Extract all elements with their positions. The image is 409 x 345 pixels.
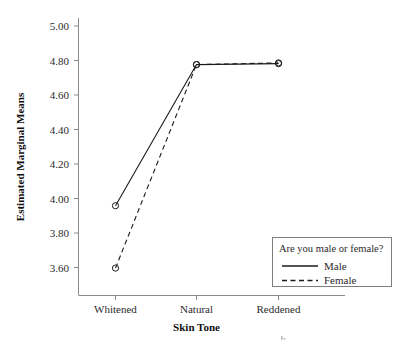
y-tick-label: 4.20 [50, 158, 70, 170]
scan-artifact [281, 336, 283, 340]
series-female [112, 60, 281, 271]
y-tick-label: 4.40 [50, 124, 70, 136]
legend-label-female: Female [324, 274, 356, 286]
x-tick-label-natural: Natural [180, 303, 213, 315]
y-tick-label: 4.60 [50, 89, 70, 101]
scan-artifact [284, 338, 286, 340]
legend: Are you male or female? Male Female [273, 238, 392, 287]
y-tick-label: 4.80 [50, 55, 70, 67]
female-line [116, 63, 279, 268]
y-axis-group: 5.00 4.80 4.60 4.40 4.20 4.00 3.80 3.60 … [14, 18, 79, 295]
x-tick-label-reddened: Reddened [257, 303, 301, 315]
legend-title: Are you male or female? [279, 243, 384, 254]
x-axis-group: Whitened Natural Reddened Skin Tone [79, 296, 346, 334]
y-axis-title: Estimated Marginal Means [14, 92, 26, 221]
y-tick-label: 4.00 [50, 193, 70, 205]
series-male [112, 61, 281, 209]
y-tick-label: 5.00 [50, 20, 70, 32]
y-tick-label: 3.80 [50, 227, 70, 239]
x-tick-label-whitened: Whitened [94, 303, 137, 315]
x-axis-title: Skin Tone [173, 321, 220, 333]
legend-label-male: Male [324, 260, 347, 272]
chart-canvas: 5.00 4.80 4.60 4.40 4.20 4.00 3.80 3.60 … [0, 0, 409, 345]
y-tick-label: 3.60 [50, 262, 70, 274]
interaction-plot-chart: 5.00 4.80 4.60 4.40 4.20 4.00 3.80 3.60 … [0, 0, 409, 345]
male-line [116, 64, 279, 206]
